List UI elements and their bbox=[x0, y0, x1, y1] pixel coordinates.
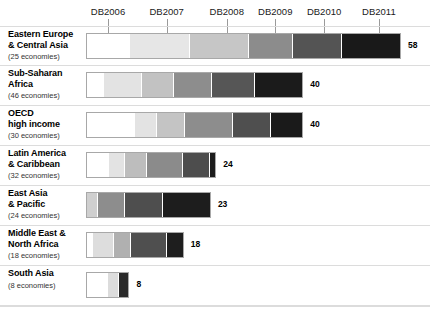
bar-segment-db2009[interactable] bbox=[146, 153, 183, 177]
stacked-bar[interactable] bbox=[86, 192, 211, 218]
region-economies-count: (30 economies) bbox=[8, 130, 82, 141]
region-label: Middle East &North Africa(18 economies) bbox=[8, 228, 82, 261]
bar-segment-db2009[interactable] bbox=[124, 193, 161, 217]
chart-row: Middle East &North Africa(18 economies)1… bbox=[0, 226, 430, 266]
region-name-line2: & Pacific bbox=[8, 199, 82, 210]
region-name-line1: East Asia bbox=[8, 188, 82, 199]
bar-segment-db2006[interactable] bbox=[87, 34, 129, 58]
region-economies-count: (32 economies) bbox=[8, 170, 82, 181]
bar-segment-db2006[interactable] bbox=[87, 113, 134, 137]
bar-segment-db2010[interactable] bbox=[292, 34, 341, 58]
region-name-line1: Latin America bbox=[8, 148, 82, 159]
stacked-bar[interactable] bbox=[86, 72, 303, 98]
chart-axis-header: DB2006DB2007DB2008DB2009DB2010DB2011 bbox=[0, 6, 430, 28]
region-label: South Asia(8 economies) bbox=[8, 268, 82, 291]
bar-segment-db2008[interactable] bbox=[97, 193, 124, 217]
axis-label-db2008: DB2008 bbox=[210, 6, 244, 17]
bar-segment-db2011[interactable] bbox=[254, 73, 302, 97]
bar-segment-db2011[interactable] bbox=[270, 113, 303, 137]
bar-segment-db2010[interactable] bbox=[162, 193, 210, 217]
bar-segment-db2006[interactable] bbox=[87, 153, 108, 177]
axis-label-db2011: DB2011 bbox=[362, 6, 396, 17]
bar-segment-db2008[interactable] bbox=[156, 113, 183, 137]
region-name-line1: Middle East & bbox=[8, 228, 82, 239]
bar-total-value: 8 bbox=[136, 280, 141, 289]
region-economies-count: (24 economies) bbox=[8, 210, 82, 221]
region-name-line1: OECD bbox=[8, 108, 82, 119]
region-name-line1: Eastern Europe bbox=[8, 29, 82, 40]
bar-total-value: 24 bbox=[223, 160, 232, 169]
region-economies-count: (18 economies) bbox=[8, 250, 82, 261]
bar-segment-db2010[interactable] bbox=[166, 233, 182, 257]
bar-segment-db2009[interactable] bbox=[173, 73, 211, 97]
bar-segment-db2007[interactable] bbox=[134, 113, 156, 137]
stacked-bar[interactable] bbox=[86, 112, 303, 138]
bar-segment-db2009[interactable] bbox=[248, 34, 291, 58]
region-name-line2: North Africa bbox=[8, 239, 82, 250]
chart-row: Sub-SaharanAfrica(46 economies)40 bbox=[0, 66, 430, 106]
region-name-line2: Africa bbox=[8, 79, 82, 90]
axis-label-db2007: DB2007 bbox=[149, 6, 183, 17]
bar-segment-db2006[interactable] bbox=[87, 273, 107, 297]
stacked-bar[interactable] bbox=[86, 152, 216, 178]
bar-segment-db2009[interactable] bbox=[130, 233, 167, 257]
bar-segment-db2008[interactable] bbox=[113, 233, 129, 257]
bar-segment-db2008[interactable] bbox=[141, 73, 174, 97]
bar-segment-db2009[interactable] bbox=[184, 113, 232, 137]
bar-segment-db2007[interactable] bbox=[87, 193, 97, 217]
region-label: OECDhigh income(30 economies) bbox=[8, 108, 82, 141]
bar-segment-db2007[interactable] bbox=[107, 273, 118, 297]
region-economies-count: (8 economies) bbox=[8, 280, 82, 291]
region-economies-count: (25 economies) bbox=[8, 51, 82, 62]
bar-total-value: 40 bbox=[310, 80, 319, 89]
axis-label-db2010: DB2010 bbox=[307, 6, 341, 17]
bar-segment-db2006[interactable] bbox=[87, 73, 103, 97]
bar-segment-db2008[interactable] bbox=[189, 34, 248, 58]
bar-segment-db2010[interactable] bbox=[232, 113, 270, 137]
bar-total-value: 23 bbox=[218, 200, 227, 209]
bar-segment-db2007[interactable] bbox=[129, 34, 188, 58]
bar-segment-db2008[interactable] bbox=[118, 273, 129, 297]
region-label: East Asia& Pacific(24 economies) bbox=[8, 188, 82, 221]
axis-label-db2009: DB2009 bbox=[258, 6, 292, 17]
axis-label-db2006: DB2006 bbox=[91, 6, 125, 17]
region-name-line2: & Caribbean bbox=[8, 159, 82, 170]
bar-total-value: 40 bbox=[310, 120, 319, 129]
region-label: Eastern Europe& Central Asia(25 economie… bbox=[8, 29, 82, 62]
bar-segment-db2007[interactable] bbox=[92, 233, 113, 257]
chart-row: OECDhigh income(30 economies)40 bbox=[0, 106, 430, 146]
region-economies-count: (46 economies) bbox=[8, 90, 82, 101]
region-name-line1: Sub-Saharan bbox=[8, 68, 82, 79]
chart-row: East Asia& Pacific(24 economies)23 bbox=[0, 186, 430, 226]
region-label: Latin America& Caribbean(32 economies) bbox=[8, 148, 82, 181]
bar-segment-db2007[interactable] bbox=[103, 73, 141, 97]
region-label: Sub-SaharanAfrica(46 economies) bbox=[8, 68, 82, 101]
region-name-line1: South Asia bbox=[8, 268, 82, 279]
bar-segment-db2007[interactable] bbox=[108, 153, 124, 177]
chart-rows: Eastern Europe& Central Asia(25 economie… bbox=[0, 26, 430, 306]
bar-segment-db2011[interactable] bbox=[209, 153, 215, 177]
stacked-bar[interactable] bbox=[86, 33, 401, 59]
bar-total-value: 58 bbox=[408, 41, 417, 50]
footer-divider bbox=[0, 306, 430, 307]
bar-segment-db2010[interactable] bbox=[182, 153, 209, 177]
bar-segment-db2010[interactable] bbox=[211, 73, 254, 97]
stacked-bar[interactable] bbox=[86, 272, 129, 298]
bar-total-value: 18 bbox=[191, 240, 200, 249]
bar-segment-db2011[interactable] bbox=[341, 34, 400, 58]
chart-row: Latin America& Caribbean(32 economies)24 bbox=[0, 146, 430, 186]
region-name-line2: & Central Asia bbox=[8, 40, 82, 51]
chart-row: Eastern Europe& Central Asia(25 economie… bbox=[0, 26, 430, 66]
bar-segment-db2008[interactable] bbox=[124, 153, 146, 177]
region-name-line2: high income bbox=[8, 119, 82, 130]
stacked-bar[interactable] bbox=[86, 232, 184, 258]
chart-row: South Asia(8 economies)8 bbox=[0, 266, 430, 306]
